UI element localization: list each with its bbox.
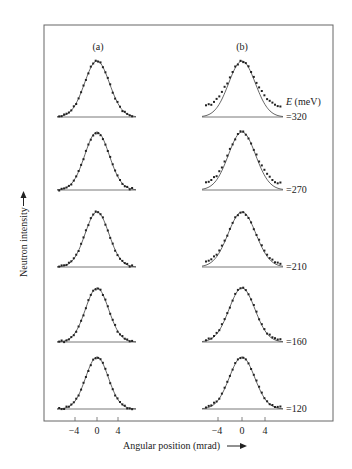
data-point <box>100 358 102 360</box>
data-point <box>78 250 80 252</box>
x-axis-label: Angular position (mrad) <box>123 440 220 452</box>
data-point <box>213 402 215 404</box>
data-point <box>261 323 263 325</box>
data-point <box>104 71 106 73</box>
data-point <box>102 294 104 296</box>
data-point <box>90 66 92 68</box>
data-point <box>242 61 244 63</box>
data-point <box>66 187 68 189</box>
data-point <box>256 234 258 236</box>
data-point <box>90 294 92 296</box>
data-point <box>250 143 252 145</box>
data-point <box>256 82 258 84</box>
data-point <box>234 293 236 295</box>
data-point <box>109 83 111 85</box>
data-point <box>208 260 210 262</box>
data-point <box>234 66 236 68</box>
gaussian-fit-line <box>57 132 136 190</box>
data-point <box>240 212 242 214</box>
data-point <box>95 211 97 213</box>
data-point <box>205 104 207 106</box>
data-point <box>129 407 131 409</box>
energy-label-270: =270 <box>286 184 307 195</box>
data-point <box>248 65 250 67</box>
data-point <box>114 170 116 172</box>
energy-label-120: =120 <box>286 403 307 414</box>
data-point <box>124 111 126 113</box>
data-point <box>256 380 258 382</box>
data-point <box>242 287 244 289</box>
data-point <box>100 61 102 63</box>
data-point <box>117 101 119 103</box>
data-point <box>216 254 218 256</box>
data-point <box>126 263 128 265</box>
data-point <box>269 403 271 405</box>
data-point <box>208 338 210 340</box>
data-point <box>119 106 121 108</box>
data-point <box>224 318 226 320</box>
data-point <box>80 389 82 391</box>
data-point <box>121 335 123 337</box>
data-point <box>100 213 102 215</box>
data-point <box>271 404 273 406</box>
data-point <box>221 245 223 247</box>
data-point <box>240 60 242 62</box>
data-point <box>112 388 114 390</box>
data-point <box>104 299 106 301</box>
data-point <box>78 395 80 397</box>
data-point <box>83 314 85 316</box>
data-point <box>97 288 99 290</box>
data-point <box>87 224 89 226</box>
data-point <box>274 104 276 106</box>
data-point <box>92 135 94 137</box>
data-point <box>66 339 68 341</box>
data-point <box>205 407 207 409</box>
data-point <box>58 341 60 343</box>
data-point <box>266 254 268 256</box>
data-point <box>95 288 97 290</box>
gaussian-fit-line <box>202 288 283 342</box>
data-point <box>61 340 63 342</box>
data-point <box>274 406 276 408</box>
data-point <box>261 392 263 394</box>
energy-symbol: E <box>285 96 292 107</box>
data-point <box>119 401 121 403</box>
data-point <box>218 329 220 331</box>
data-point <box>213 335 215 337</box>
data-point <box>58 190 60 192</box>
data-point <box>250 71 252 73</box>
data-point <box>261 90 263 92</box>
data-point <box>92 214 94 216</box>
data-point <box>210 258 212 260</box>
data-point <box>80 164 82 166</box>
panel-a-label: (a) <box>92 41 103 53</box>
data-point <box>83 382 85 384</box>
tick-label-b-4: 4 <box>263 425 268 436</box>
data-point <box>242 131 244 133</box>
data-point <box>107 230 109 232</box>
data-point <box>279 406 281 408</box>
data-point <box>102 362 104 364</box>
data-point <box>70 404 72 406</box>
data-point <box>256 311 258 313</box>
data-point <box>226 235 228 237</box>
data-point <box>119 179 121 181</box>
data-point <box>263 328 265 330</box>
data-point <box>210 404 212 406</box>
data-point <box>104 368 106 370</box>
data-point <box>224 240 226 242</box>
data-point <box>263 169 265 171</box>
data-point <box>210 179 212 181</box>
data-point <box>102 66 104 68</box>
gaussian-fit-line <box>202 357 283 409</box>
data-point <box>109 237 111 239</box>
data-point <box>258 86 260 88</box>
data-point <box>240 130 242 132</box>
data-point <box>102 216 104 218</box>
data-point <box>87 144 89 146</box>
data-point <box>205 261 207 263</box>
data-point <box>269 257 271 259</box>
data-point <box>226 83 228 85</box>
data-point <box>121 403 123 405</box>
data-point <box>68 112 70 114</box>
